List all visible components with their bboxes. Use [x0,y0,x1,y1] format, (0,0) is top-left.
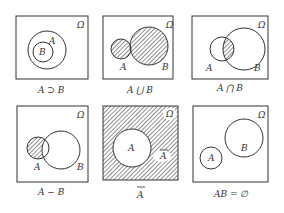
circle-b [130,27,168,65]
label-a: A [119,62,127,72]
panel-subset: A B Ω A ⊃ B [16,16,88,95]
label-omega: Ω [257,110,266,120]
label-a: A [127,143,135,153]
caption: A [136,190,144,200]
label-a: A [207,153,215,163]
circle-a [111,39,131,59]
panel-complement: A A Ω A [103,106,178,200]
label-omega: Ω [76,110,85,120]
label-b: B [161,62,169,72]
universe-box [193,106,268,182]
caption: A ⋃ B [126,85,153,95]
caption: A ⋂ B [216,83,243,93]
label-b: B [240,143,248,153]
panel-intersection: A B Ω A ⋂ B [192,16,268,93]
label-b: B [76,162,84,172]
label-a-complement: A [159,151,167,161]
label-b: B [253,63,261,73]
label-omega: Ω [76,20,85,30]
panel-difference: A B Ω A − B [17,106,88,197]
label-omega: Ω [165,109,174,119]
label-omega: Ω [165,20,174,30]
caption: AB = ∅ [213,189,249,199]
caption: A − B [37,187,65,197]
caption: A ⊃ B [37,85,65,95]
label-a: A [33,162,41,172]
label-a: A [205,63,213,73]
venn-diagram-grid: A B Ω A ⊃ B A B Ω A ⋃ B A B Ω A ⋂ B A B … [0,0,284,213]
label-omega: Ω [257,20,266,30]
panel-disjoint: A B Ω AB = ∅ [193,106,268,199]
panel-union: A B Ω A ⋃ B [103,16,174,95]
label-b: B [38,47,46,57]
label-a: A [48,36,56,46]
